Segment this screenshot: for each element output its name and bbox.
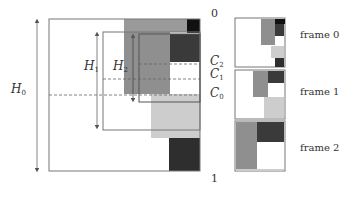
frame-0-thumbnail (235, 18, 285, 67)
h1-symbol: H (84, 59, 94, 73)
h2-label: H2 (113, 60, 128, 74)
frame-1-label: frame 1 (300, 87, 339, 97)
h1-label: H1 (84, 60, 99, 74)
c2-symbol: C (210, 54, 219, 68)
c0-label: C0 (210, 87, 224, 101)
c1-label: C1 (210, 68, 224, 82)
h0-symbol: H (11, 82, 21, 96)
dark-gray-block (170, 34, 200, 62)
c0-symbol: C (210, 86, 219, 100)
h0-subscript: 0 (21, 89, 25, 97)
black-corner-block (187, 19, 200, 33)
c1-symbol: C (210, 67, 219, 81)
frame-2-thumbnail (235, 121, 285, 171)
h1-subscript: 1 (94, 66, 98, 74)
axis-top-label: 0 (211, 8, 218, 19)
frame-1-thumbnail (235, 70, 285, 119)
main-figure (37, 19, 200, 171)
h2-symbol: H (113, 59, 123, 73)
light-gray-block (151, 94, 200, 138)
h2-subscript: 2 (123, 66, 127, 74)
frame-0-label: frame 0 (300, 30, 339, 40)
c0-subscript: 0 (219, 93, 223, 101)
c1-subscript: 1 (219, 74, 223, 82)
mid-gray-top-strip (124, 19, 187, 32)
frame-2-label: frame 2 (300, 143, 339, 153)
axis-bottom-label: 1 (211, 173, 218, 184)
h0-label: H0 (11, 83, 26, 97)
dark-bottom-block (169, 138, 200, 171)
